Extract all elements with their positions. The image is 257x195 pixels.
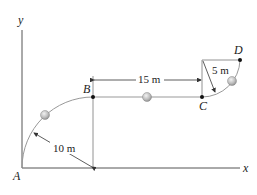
point-d-marker [238,58,242,62]
y-axis-label: y [17,13,24,27]
arc-a-to-b [22,97,93,168]
point-c-label: C [199,99,208,113]
radius-ab-label: 10 m [53,142,76,154]
length-bc-label: 15 m [138,73,161,85]
ball-on-segment-bc [143,93,152,102]
radius-cd-label: 5 m [212,64,229,76]
ball-on-arc-ab [41,111,50,120]
point-d-label: D [233,43,243,57]
point-a-label: A [12,169,21,183]
point-b-marker [91,95,95,99]
point-b-label: B [83,82,91,96]
path-diagram: y x 10 m 15 m 5 m A B C D [0,0,257,195]
x-axis-label: x [242,161,249,175]
ball-on-arc-cd [228,77,237,86]
